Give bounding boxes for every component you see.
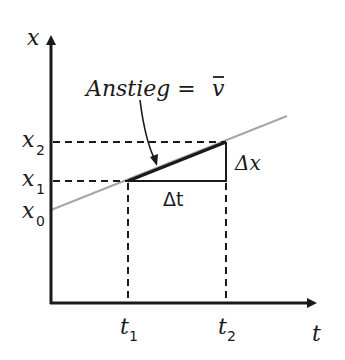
svg-text:0: 0 xyxy=(36,213,45,229)
svg-text:t: t xyxy=(120,314,129,339)
svg-text:t: t xyxy=(218,314,227,339)
annotation-arrowhead-icon xyxy=(150,154,158,166)
secant-line xyxy=(128,142,226,181)
y-tick-x1: x 1 xyxy=(22,166,45,197)
y-tick-x2: x 2 xyxy=(22,127,45,158)
svg-text:2: 2 xyxy=(36,142,45,158)
slope-annotation: Anstieg = v xyxy=(84,76,225,101)
delta-x-label: Δx xyxy=(234,151,261,175)
svg-text:Anstieg =: Anstieg = xyxy=(84,76,196,101)
dashed-guides xyxy=(53,142,226,303)
y-tick-x0: x 0 xyxy=(22,198,45,229)
svg-text:x: x xyxy=(22,127,35,152)
annotation-arrow xyxy=(140,100,155,160)
delta-t-label: Δt xyxy=(163,188,183,210)
x-axis-label: t xyxy=(312,321,321,346)
svg-text:1: 1 xyxy=(129,328,138,344)
svg-text:2: 2 xyxy=(227,328,236,344)
svg-text:x: x xyxy=(22,198,35,223)
x-tick-t2: t 2 xyxy=(218,314,236,344)
svg-text:v: v xyxy=(212,76,225,101)
svg-text:1: 1 xyxy=(36,181,45,197)
position-time-diagram: x t x 2 x 1 x 0 t 1 t 2 Anstieg = v Δx Δ… xyxy=(0,0,345,360)
svg-text:x: x xyxy=(22,166,35,191)
x-tick-t1: t 1 xyxy=(120,314,138,344)
y-axis-label: x xyxy=(27,25,40,50)
